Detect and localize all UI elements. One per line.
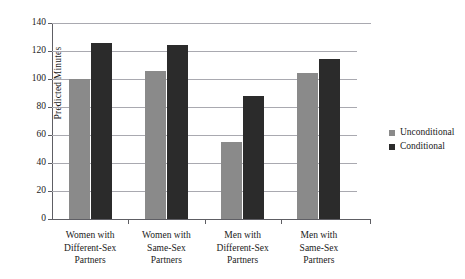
y-axis-tick-label: 100 <box>32 74 46 84</box>
y-axis-tick-label: 140 <box>32 18 46 28</box>
x-axis-category-label: Men with Same-Sex Partners <box>281 229 357 267</box>
legend-label: Unconditional <box>400 128 454 138</box>
chart-legend: UnconditionalConditional <box>389 126 454 154</box>
legend-swatch-icon <box>389 130 395 136</box>
bar <box>221 142 242 219</box>
bar <box>69 79 90 219</box>
y-axis-tick-mark <box>48 79 52 80</box>
y-axis-tick-label: 120 <box>32 46 46 56</box>
x-axis-category-label: Women with Different-Sex Partners <box>52 229 128 267</box>
x-axis-tick-mark <box>370 219 371 224</box>
y-axis-tick-mark <box>48 219 52 220</box>
y-axis-line <box>52 23 53 219</box>
y-axis-tick-label: 40 <box>37 158 47 168</box>
x-axis-line-extension <box>357 219 371 220</box>
x-axis-tick-mark <box>128 219 129 224</box>
plot-area: 140120100806040200 Women with Different-… <box>52 23 357 219</box>
x-axis-tick-mark <box>281 219 282 224</box>
bar <box>319 59 340 219</box>
bar <box>91 43 112 219</box>
legend-item[interactable]: Conditional <box>389 140 454 154</box>
y-axis-tick-mark <box>48 23 52 24</box>
bar <box>243 96 264 219</box>
bar <box>145 71 166 219</box>
bar <box>297 73 318 219</box>
y-axis-tick-mark <box>48 163 52 164</box>
bar <box>167 45 188 219</box>
y-axis-tick-label: 0 <box>41 214 46 224</box>
y-axis-tick-label: 60 <box>37 130 47 140</box>
gridline <box>52 23 371 24</box>
y-axis-tick-label: 80 <box>37 102 47 112</box>
x-axis-tick-mark <box>205 219 206 224</box>
bar-chart-figure: Predicted Minutes 140120100806040200 Wom… <box>0 0 465 279</box>
legend-item[interactable]: Unconditional <box>389 126 454 140</box>
y-axis-tick-label: 20 <box>37 186 47 196</box>
y-axis-tick-mark <box>48 107 52 108</box>
y-axis-tick-mark <box>48 51 52 52</box>
y-axis-tick-mark <box>48 191 52 192</box>
legend-swatch-icon <box>389 144 395 150</box>
x-axis-category-label: Women with Same-Sex Partners <box>128 229 204 267</box>
y-axis-tick-mark <box>48 135 52 136</box>
x-axis-category-label: Men with Different-Sex Partners <box>205 229 281 267</box>
legend-label: Conditional <box>400 142 445 152</box>
